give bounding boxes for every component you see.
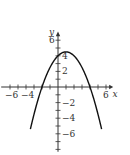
x-tick-label: −4 [21, 90, 35, 100]
y-tick-label: −2 [62, 98, 75, 108]
x-tick-label: 6 [103, 90, 109, 100]
x-tick-label: −6 [5, 90, 19, 100]
y-axis-label: y [48, 27, 55, 37]
parabola-chart: −6−46642−2−4−6 x y [0, 0, 130, 155]
x-axis-label: x [112, 89, 117, 99]
y-tick-label: −4 [62, 113, 76, 123]
y-axis-arrow-icon [56, 32, 60, 37]
y-tick-label: −6 [62, 129, 76, 139]
y-tick-label: 2 [62, 66, 68, 76]
